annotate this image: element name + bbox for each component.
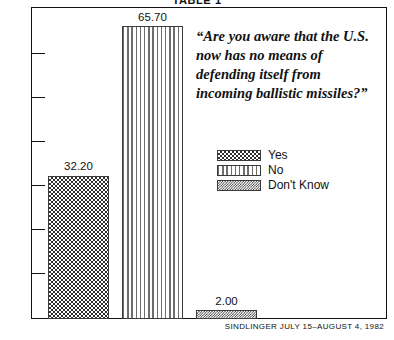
legend-swatch-yes-icon — [217, 150, 261, 161]
legend-item-dont-know[interactable]: Don't Know — [217, 178, 329, 192]
y-axis: 70 60 50 40 30 20 10 0 — [0, 0, 31, 340]
legend-label-dont-know: Don't Know — [268, 179, 329, 191]
source-attribution: SINDLINGER JULY 15–AUGUST 4, 1982 — [225, 322, 384, 331]
chart-legend: Yes No Don't Know — [217, 148, 329, 193]
legend-item-no[interactable]: No — [217, 163, 329, 177]
bar-no[interactable] — [122, 26, 183, 319]
figure-title: TABLE 1 — [0, 0, 394, 4]
legend-swatch-no-icon — [217, 165, 261, 176]
legend-label-yes: Yes — [268, 149, 288, 161]
bar-dont-know[interactable] — [196, 310, 257, 319]
legend-item-yes[interactable]: Yes — [217, 148, 329, 162]
quote-text: “Are you aware that the U.S. now has no … — [196, 27, 376, 104]
bar-value-label-no: 65.70 — [122, 12, 183, 24]
bar-value-label-yes: 32.20 — [48, 161, 109, 173]
chart-figure: TABLE 1 70 60 50 40 30 20 10 0 32.20 65.… — [0, 0, 394, 340]
legend-label-no: No — [268, 164, 283, 176]
bar-yes[interactable] — [48, 176, 109, 320]
bar-value-label-dont-know: 2.00 — [196, 296, 257, 308]
legend-swatch-dont-know-icon — [217, 180, 261, 191]
